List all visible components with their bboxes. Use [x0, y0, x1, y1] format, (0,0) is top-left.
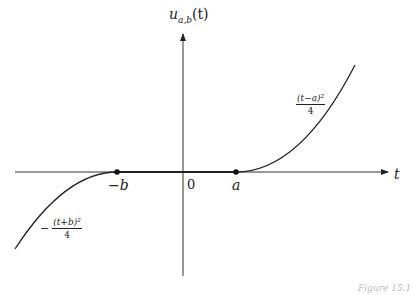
left-formula-denominator: 4 — [64, 229, 70, 240]
figure-caption: Figure 15.1 — [358, 283, 411, 293]
tick-label-zero: 0 — [187, 178, 195, 191]
tick-label-neg-b: −b — [108, 178, 129, 192]
right-formula-numerator: (t−a)² — [296, 93, 325, 105]
tick-label-a: a — [232, 178, 240, 192]
right-formula: (t−a)² 4 — [296, 93, 325, 116]
y-label-main: u — [169, 6, 178, 22]
y-label-argument: (t) — [192, 6, 209, 22]
right-formula-denominator: 4 — [308, 105, 314, 116]
x-axis-label: t — [394, 167, 400, 181]
y-axis-label: ua,b(t) — [169, 7, 209, 25]
left-formula-numerator: (t+b)² — [52, 217, 82, 229]
y-label-subscript: a,b — [178, 15, 192, 25]
left-formula: − (t+b)² 4 — [40, 217, 82, 240]
point-neg-b — [114, 169, 120, 175]
point-a — [233, 169, 239, 175]
left-formula-sign: − — [40, 222, 49, 235]
right-parabola-curve — [236, 65, 355, 172]
